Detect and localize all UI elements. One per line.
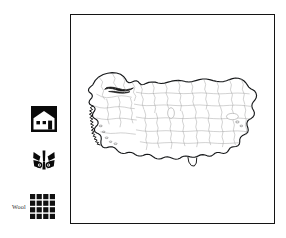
turkey-map — [71, 15, 274, 223]
butterfly-motif-icon — [31, 148, 57, 174]
map-frame — [70, 14, 275, 224]
legend: Wool — [0, 104, 66, 228]
legend-item-motif[interactable] — [0, 146, 66, 176]
legend-item-wool[interactable]: Wool — [0, 191, 66, 223]
house-icon — [31, 106, 57, 132]
legend-item-house[interactable] — [0, 104, 66, 134]
lake-van — [226, 113, 238, 119]
wool-weave-grid-icon — [29, 193, 57, 221]
iskenderun-bay — [188, 157, 197, 166]
map-figure: Wool — [0, 0, 286, 238]
lake-tuz — [168, 108, 175, 119]
legend-item-wool-label: Wool — [12, 204, 26, 210]
